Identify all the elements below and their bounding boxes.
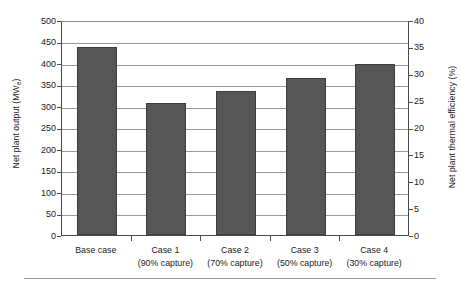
x-axis-tick-mark: [339, 236, 340, 241]
y-axis-right-tick-label: 15: [414, 151, 448, 160]
y-axis-left-tick-label: 400: [22, 60, 56, 69]
y-axis-left-tick-label: 100: [22, 189, 56, 198]
x-axis-category-sublabel: (90% capture): [131, 257, 201, 270]
y-axis-left-tick-label: 500: [22, 17, 56, 26]
y-axis-right-tick-mark: [409, 102, 413, 103]
y-axis-right-tick-label: 30: [414, 70, 448, 79]
bar: [77, 47, 117, 235]
y-axis-left-tick-label: 350: [22, 81, 56, 90]
x-axis-tick-mark: [200, 236, 201, 241]
x-axis-category-name: Case 1: [131, 244, 201, 257]
y-axis-left-tick-label: 150: [22, 167, 56, 176]
chart-figure: Net plant output (MWe) Net plant thermal…: [0, 0, 461, 287]
y-axis-left-tick-label: 300: [22, 103, 56, 112]
y-axis-left-tick-label: 250: [22, 124, 56, 133]
bar: [286, 78, 326, 235]
y-axis-right-tick-label: 0: [414, 232, 448, 241]
y-axis-left-tick-label: 450: [22, 38, 56, 47]
y-axis-right-tick-label: 10: [414, 178, 448, 187]
plot-area: [61, 21, 409, 236]
y-axis-right-ticks: 4035302520151050: [414, 21, 452, 236]
y-axis-right-tick-mark: [409, 182, 413, 183]
y-axis-right-tick-mark: [409, 48, 413, 49]
y-axis-left-tick-label: 0: [22, 232, 56, 241]
y-axis-right-tick-mark: [409, 155, 413, 156]
y-axis-right-tick-mark: [409, 75, 413, 76]
y-axis-right-tick-mark: [409, 129, 413, 130]
y-axis-left-ticks: 500450400350300250200150100500: [18, 21, 56, 236]
bottom-divider: [24, 278, 436, 279]
x-axis-category-sublabel: (70% capture): [200, 257, 270, 270]
y-axis-right-tick-label: 40: [414, 17, 448, 26]
y-axis-right-tick-mark: [409, 21, 413, 22]
bar: [146, 103, 186, 235]
y-axis-left-tick-label: 200: [22, 146, 56, 155]
bar: [216, 91, 256, 235]
x-axis-category-name: Case 4: [339, 244, 409, 257]
x-axis-category-sublabel: (30% capture): [339, 257, 409, 270]
y-axis-right-tick-label: 20: [414, 124, 448, 133]
x-axis-tick-mark: [270, 236, 271, 241]
y-axis-right-tick-label: 5: [414, 205, 448, 214]
y-axis-right-tick-mark: [409, 209, 413, 210]
gridline: [62, 43, 408, 44]
x-axis-category-label: Case 4(30% capture): [339, 244, 409, 269]
x-axis-category-label: Case 2(70% capture): [200, 244, 270, 269]
x-axis-category-label: Case 3(50% capture): [270, 244, 340, 269]
x-axis-category-sublabel: (50% capture): [270, 257, 340, 270]
x-axis-tick-mark: [131, 236, 132, 241]
x-axis-category-name: Base case: [61, 244, 131, 257]
bar: [355, 64, 395, 235]
y-axis-right-tick-label: 25: [414, 97, 448, 106]
x-axis-category-label: Case 1(90% capture): [131, 244, 201, 269]
y-axis-right-tick-label: 35: [414, 43, 448, 52]
y-axis-left-tick-label: 50: [22, 210, 56, 219]
x-axis-category-label: Base case: [61, 244, 131, 257]
x-axis-category-name: Case 2: [200, 244, 270, 257]
x-axis-category-name: Case 3: [270, 244, 340, 257]
x-axis-categories: Base caseCase 1(90% capture)Case 2(70% c…: [61, 236, 409, 282]
y-axis-right-tick-mark: [409, 236, 413, 237]
